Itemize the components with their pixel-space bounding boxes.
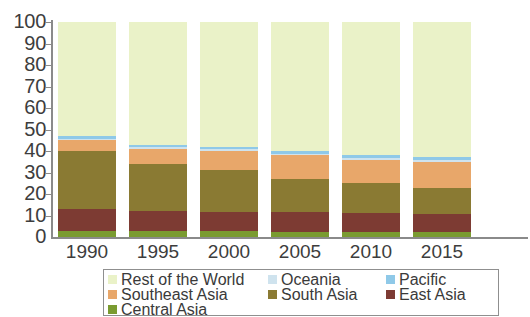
bar-segment-south-asia[interactable] [413, 188, 471, 214]
bar-segment-pacific[interactable] [58, 136, 116, 139]
x-tick-label-2000: 2000 [200, 241, 258, 263]
bar-segment-oceania[interactable] [129, 147, 187, 149]
legend-item-south-asia[interactable]: South Asia [268, 287, 386, 302]
bar-segment-southeast-asia[interactable] [342, 160, 400, 184]
bar-segment-south-asia[interactable] [200, 170, 258, 211]
bar-segment-rest-of-the-world[interactable] [58, 22, 116, 136]
legend-label: Oceania [281, 272, 341, 287]
y-tick-mark-20 [45, 194, 52, 195]
legend-label: South Asia [281, 287, 358, 302]
bar-segment-rest-of-the-world[interactable] [200, 22, 258, 147]
y-tick-label-50: 50 [2, 119, 46, 139]
chart-legend: Rest of the WorldOceaniaPacificSoutheast… [103, 269, 499, 316]
bar-2005[interactable] [271, 22, 329, 237]
y-tick-label-80: 80 [2, 54, 46, 74]
bar-segment-southeast-asia[interactable] [129, 149, 187, 164]
legend-item-oceania[interactable]: Oceania [268, 272, 386, 287]
y-tick-label-70: 70 [2, 76, 46, 96]
legend-swatch-icon [268, 290, 277, 299]
bar-segment-oceania[interactable] [413, 160, 471, 162]
y-tick-mark-50 [45, 130, 52, 131]
bar-segment-southeast-asia[interactable] [200, 151, 258, 170]
bar-segment-southeast-asia[interactable] [271, 155, 329, 179]
legend-swatch-icon [386, 290, 395, 299]
legend-label: Southeast Asia [121, 287, 228, 302]
bar-segment-east-asia[interactable] [271, 212, 329, 232]
bar-segment-south-asia[interactable] [271, 179, 329, 212]
bar-segment-rest-of-the-world[interactable] [129, 22, 187, 145]
stacked-bar-chart: 1009080706050403020100 19901995200020052… [0, 0, 530, 317]
y-tick-label-60: 60 [2, 97, 46, 117]
legend-item-central-asia[interactable]: Central Asia [108, 302, 268, 317]
legend-swatch-icon [108, 305, 117, 314]
bar-segment-east-asia[interactable] [342, 213, 400, 232]
bar-segment-oceania[interactable] [58, 139, 116, 141]
y-tick-mark-30 [45, 173, 52, 174]
legend-label: Central Asia [121, 302, 207, 317]
bar-segment-east-asia[interactable] [200, 212, 258, 232]
legend-item-southeast-asia[interactable]: Southeast Asia [108, 287, 268, 302]
x-tick-label-2015: 2015 [413, 241, 471, 263]
bar-segment-east-asia[interactable] [129, 211, 187, 231]
bar-segment-rest-of-the-world[interactable] [342, 22, 400, 155]
bar-segment-pacific[interactable] [200, 147, 258, 150]
y-tick-mark-60 [45, 108, 52, 109]
bar-segment-oceania[interactable] [342, 158, 400, 160]
bar-segment-central-asia[interactable] [58, 231, 116, 237]
y-tick-label-90: 90 [2, 33, 46, 53]
bar-1990[interactable] [58, 22, 116, 237]
bar-2015[interactable] [413, 22, 471, 237]
legend-label: Rest of the World [121, 272, 244, 287]
bar-segment-southeast-asia[interactable] [58, 140, 116, 151]
y-tick-label-40: 40 [2, 140, 46, 160]
bar-segment-east-asia[interactable] [413, 214, 471, 232]
bar-segment-pacific[interactable] [342, 155, 400, 158]
x-tick-label-1995: 1995 [129, 241, 187, 263]
y-tick-label-100: 100 [2, 11, 46, 31]
x-axis-line [51, 237, 528, 239]
bar-segment-east-asia[interactable] [58, 209, 116, 231]
bar-segment-central-asia[interactable] [413, 232, 471, 237]
legend-item-rest-of-the-world[interactable]: Rest of the World [108, 272, 268, 287]
bar-segment-pacific[interactable] [413, 157, 471, 160]
bar-segment-oceania[interactable] [200, 149, 258, 151]
bar-segment-pacific[interactable] [129, 145, 187, 148]
y-axis-labels: 1009080706050403020100 [0, 0, 46, 260]
plot-area [52, 22, 528, 237]
bar-segment-central-asia[interactable] [342, 232, 400, 237]
bar-segment-oceania[interactable] [271, 154, 329, 156]
legend-row: Central Asia [108, 302, 498, 317]
legend-swatch-icon [386, 275, 395, 284]
legend-row: Rest of the WorldOceaniaPacific [108, 272, 498, 287]
legend-swatch-icon [108, 290, 117, 299]
bar-segment-central-asia[interactable] [271, 232, 329, 237]
y-tick-mark-100 [45, 22, 52, 23]
bar-1995[interactable] [129, 22, 187, 237]
legend-swatch-icon [268, 275, 277, 284]
bar-segment-central-asia[interactable] [200, 231, 258, 237]
legend-item-pacific[interactable]: Pacific [386, 272, 498, 287]
bar-segment-central-asia[interactable] [129, 231, 187, 237]
y-tick-label-20: 20 [2, 183, 46, 203]
bar-segment-southeast-asia[interactable] [413, 162, 471, 188]
y-tick-mark-70 [45, 87, 52, 88]
bar-segment-pacific[interactable] [271, 151, 329, 154]
bar-segment-south-asia[interactable] [342, 183, 400, 213]
y-tick-label-30: 30 [2, 162, 46, 182]
legend-swatch-icon [108, 275, 117, 284]
x-tick-label-1990: 1990 [58, 241, 116, 263]
bar-2000[interactable] [200, 22, 258, 237]
bar-2010[interactable] [342, 22, 400, 237]
y-tick-mark-40 [45, 151, 52, 152]
bar-segment-rest-of-the-world[interactable] [413, 22, 471, 157]
legend-item-east-asia[interactable]: East Asia [386, 287, 498, 302]
x-tick-label-2005: 2005 [271, 241, 329, 263]
y-tick-mark-80 [45, 65, 52, 66]
bar-segment-rest-of-the-world[interactable] [271, 22, 329, 151]
legend-label: Pacific [399, 272, 446, 287]
bar-segment-south-asia[interactable] [129, 164, 187, 211]
x-tick-label-2010: 2010 [342, 241, 400, 263]
bar-segment-south-asia[interactable] [58, 151, 116, 209]
legend-label: East Asia [399, 287, 466, 302]
y-tick-mark-90 [45, 44, 52, 45]
